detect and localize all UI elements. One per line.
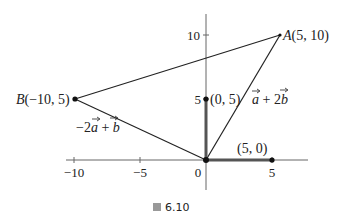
label-vector-a-plus-2b: a + 2b xyxy=(252,88,288,107)
vector-diagram: −10 −5 0 5 5 10 A(5, 10) B(−10, 5) (0, 5… xyxy=(0,0,346,215)
point-origin xyxy=(203,157,209,163)
label-A: A(5, 10) xyxy=(282,28,329,44)
point-A xyxy=(278,33,281,36)
svg-text:−2a + b: −2a + b xyxy=(76,120,120,135)
label-B: B(−10, 5) xyxy=(16,92,70,108)
y-tick-label: 10 xyxy=(187,28,200,43)
point-B xyxy=(72,96,77,101)
x-tick-label: 5 xyxy=(269,165,276,180)
caption-number: 6.10 xyxy=(165,201,190,214)
x-tick-label: −5 xyxy=(133,165,147,180)
point-5-0 xyxy=(269,157,274,162)
caption-figure-icon xyxy=(153,203,161,211)
svg-text:a + 2b: a + 2b xyxy=(252,92,288,107)
figure-caption: 6.10 xyxy=(153,201,190,214)
label-vector-minus-2a-plus-b: −2a + b xyxy=(76,116,120,135)
label-5-0: (5, 0) xyxy=(237,141,268,157)
segment-B-A xyxy=(75,35,280,99)
y-tick-label: 5 xyxy=(195,92,202,107)
x-tick-label: −10 xyxy=(64,165,84,180)
point-0-5 xyxy=(203,96,208,101)
x-tick-label: 0 xyxy=(195,165,202,180)
label-0-5: (0, 5) xyxy=(210,92,241,108)
